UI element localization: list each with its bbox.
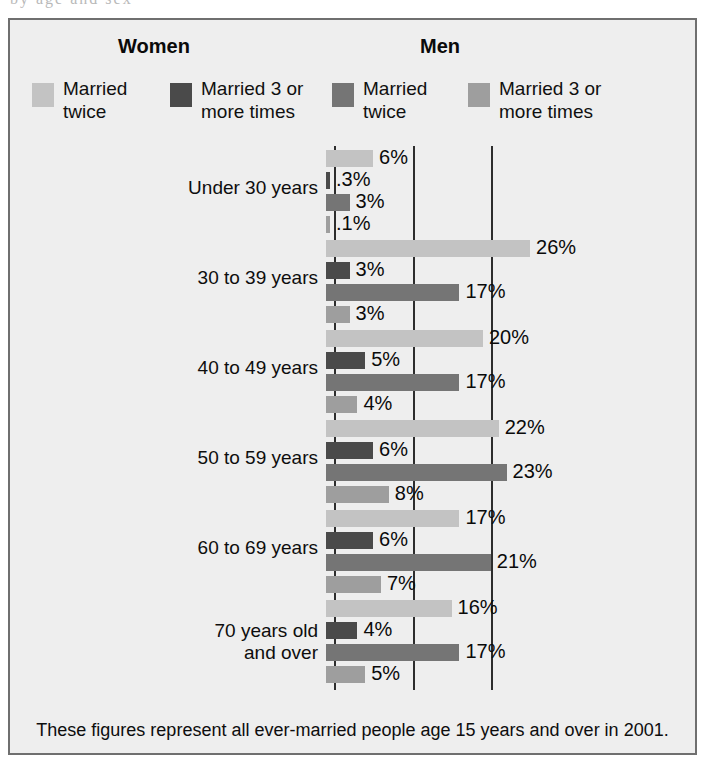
legend-swatch-icon (468, 83, 490, 107)
chart-bar-value-label: .3% (336, 168, 370, 191)
chart-category-label: 70 years old and over (58, 620, 318, 664)
chart-bar-group: 6% (326, 442, 686, 459)
chart-category-label: 40 to 49 years (58, 357, 318, 379)
chart-group-row: 50 to 59 years22%6%23%8% (10, 418, 695, 508)
legend-item-label: Married twice (363, 77, 427, 123)
chart-bar-group: 3% (326, 194, 686, 211)
chart-bar-group: 5% (326, 352, 686, 369)
chart-bar-value-label: 6% (379, 528, 408, 551)
chart-bar-group: 8% (326, 486, 686, 503)
chart-bar-value-label: .1% (336, 212, 370, 235)
chart-bar[interactable] (326, 262, 350, 279)
chart-bar-value-label: 20% (489, 326, 529, 349)
chart-bar-group: 4% (326, 396, 686, 413)
chart-bar[interactable] (326, 216, 330, 233)
chart-bar-value-label: 17% (465, 640, 505, 663)
chart-bar-value-label: 21% (497, 550, 537, 573)
chart-bar[interactable] (326, 622, 357, 639)
chart-group-row: 60 to 69 years17%6%21%7% (10, 508, 695, 598)
chart-bar-value-label: 7% (387, 572, 416, 595)
chart-bar[interactable] (326, 352, 365, 369)
chart-bar-value-label: 17% (465, 506, 505, 529)
legend-swatch-icon (332, 83, 354, 107)
chart-bar-value-label: 4% (363, 618, 392, 641)
scan-smudge-text: by age and sex (10, 0, 133, 8)
chart-bar[interactable] (326, 330, 483, 347)
legend-item-men-married-twice[interactable]: Married twice (332, 77, 427, 123)
chart-bar-value-label: 6% (379, 438, 408, 461)
chart-bar-group: 6% (326, 150, 686, 167)
chart-bar[interactable] (326, 306, 350, 323)
chart-bar-group: 16% (326, 600, 686, 617)
chart-bar[interactable] (326, 486, 389, 503)
chart-bar-group: 21% (326, 554, 686, 571)
chart-bar[interactable] (326, 150, 373, 167)
chart-bar-group: 17% (326, 284, 686, 301)
chart-bar-group: 20% (326, 330, 686, 347)
legend-swatch-icon (32, 83, 54, 107)
legend-group-title-men: Men (420, 35, 460, 58)
chart-bar-value-label: 23% (513, 460, 553, 483)
chart-bar[interactable] (326, 644, 459, 661)
chart-bar-group: 5% (326, 666, 686, 683)
legend-item-label: Married 3 or more times (499, 77, 601, 123)
legend-item-women-married-twice[interactable]: Married twice (32, 77, 127, 123)
chart-group-row: 70 years old and over16%4%17%5% (10, 598, 695, 688)
chart-group-row: 30 to 39 years26%3%17%3% (10, 238, 695, 328)
chart-bar[interactable] (326, 194, 350, 211)
chart-bar-value-label: 3% (356, 190, 385, 213)
chart-category-label: Under 30 years (58, 177, 318, 199)
legend-swatch-icon (170, 83, 192, 107)
chart-bar[interactable] (326, 420, 499, 437)
legend-group-title-women: Women (118, 35, 190, 58)
chart-bar-value-label: 6% (379, 146, 408, 169)
chart-bar-group: 4% (326, 622, 686, 639)
legend-item-women-married-3-or-more[interactable]: Married 3 or more times (170, 77, 303, 123)
chart-bar[interactable] (326, 396, 357, 413)
chart-bar-group: 7% (326, 576, 686, 593)
chart-bar-group: 26% (326, 240, 686, 257)
chart-bar-group: 23% (326, 464, 686, 481)
chart-bar-value-label: 3% (356, 258, 385, 281)
chart-bar[interactable] (326, 374, 459, 391)
legend-item-label: Married twice (63, 77, 127, 123)
chart-bar[interactable] (326, 464, 507, 481)
chart-group-row: 40 to 49 years20%5%17%4% (10, 328, 695, 418)
chart-bar[interactable] (326, 240, 530, 257)
legend-item-men-married-3-or-more[interactable]: Married 3 or more times (468, 77, 601, 123)
chart-bar[interactable] (326, 666, 365, 683)
chart-category-label: 30 to 39 years (58, 267, 318, 289)
chart-plot-area: Under 30 years6%.3%3%.1%30 to 39 years26… (10, 146, 695, 706)
chart-bar-value-label: 4% (363, 392, 392, 415)
legend-item-label: Married 3 or more times (201, 77, 303, 123)
chart-bar-value-label: 3% (356, 302, 385, 325)
chart-frame: Women Men Married twice Married 3 or mor… (8, 18, 697, 755)
chart-legend-block: Women Men Married twice Married 3 or mor… (10, 20, 695, 146)
chart-bar[interactable] (326, 532, 373, 549)
chart-bar-value-label: 5% (371, 348, 400, 371)
chart-bar-group: 6% (326, 532, 686, 549)
chart-bar-group: 17% (326, 374, 686, 391)
scan-artifact: by age and sex (0, 0, 707, 18)
chart-bar-value-label: 17% (465, 280, 505, 303)
chart-bar[interactable] (326, 284, 459, 301)
chart-bar-group: .1% (326, 216, 686, 233)
chart-bar[interactable] (326, 554, 491, 571)
chart-bar[interactable] (326, 576, 381, 593)
chart-bar-value-label: 22% (505, 416, 545, 439)
chart-group-row: Under 30 years6%.3%3%.1% (10, 148, 695, 238)
chart-bar-group: 17% (326, 510, 686, 527)
chart-bar-group: .3% (326, 172, 686, 189)
chart-bar[interactable] (326, 442, 373, 459)
chart-bar-value-label: 5% (371, 662, 400, 685)
chart-bar-group: 17% (326, 644, 686, 661)
chart-bar[interactable] (326, 172, 330, 189)
chart-bar[interactable] (326, 600, 452, 617)
chart-bar-group: 22% (326, 420, 686, 437)
chart-bar-value-label: 26% (536, 236, 576, 259)
chart-bar-value-label: 17% (465, 370, 505, 393)
chart-footnote: These figures represent all ever-married… (10, 720, 695, 741)
chart-category-label: 50 to 59 years (58, 447, 318, 469)
chart-bar-group: 3% (326, 262, 686, 279)
chart-bar[interactable] (326, 510, 459, 527)
